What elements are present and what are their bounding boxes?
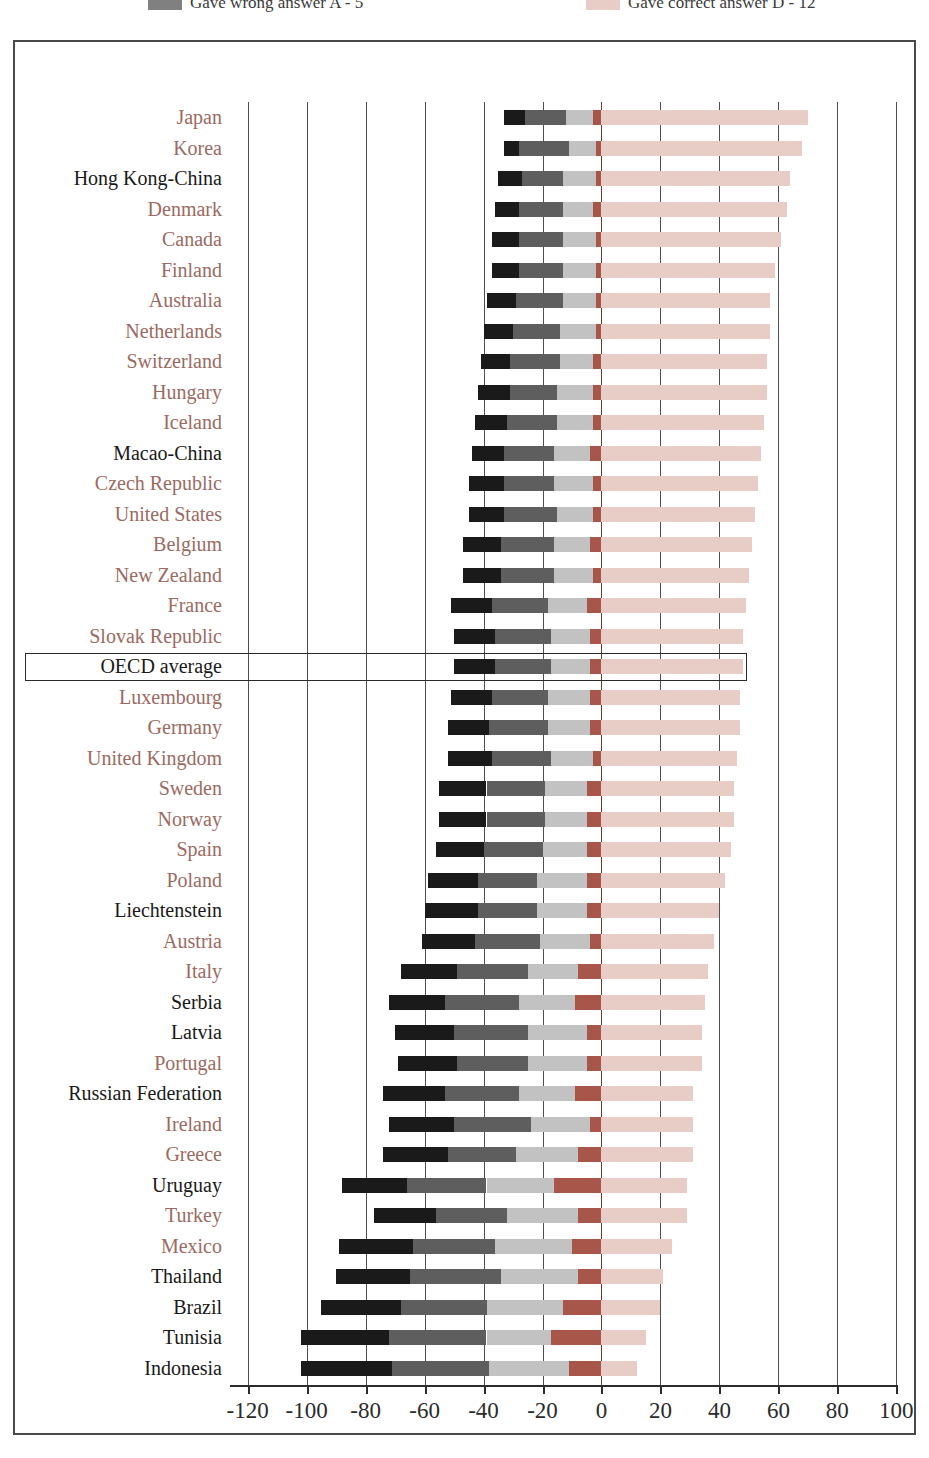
- segment-missing: [590, 446, 602, 461]
- row-label-portugal: Portugal: [35, 1048, 230, 1079]
- segment-wrong-b: [413, 1239, 496, 1254]
- segment-wrong-a: [301, 1330, 389, 1345]
- segment-wrong-a: [463, 568, 501, 583]
- segment-wrong-a: [448, 751, 492, 766]
- chart-row: Spain: [25, 834, 914, 865]
- row-bars: [230, 987, 914, 1018]
- chart-row: Tunisia: [25, 1322, 914, 1353]
- row-label-oecd-average: OECD average: [35, 651, 230, 682]
- segment-correct: [601, 1208, 687, 1223]
- segment-wrong-a: [504, 110, 525, 125]
- row-bars: [230, 1261, 914, 1292]
- segment-correct: [601, 202, 787, 217]
- chart-row: Luxembourg: [25, 682, 914, 713]
- row-label-switzerland: Switzerland: [35, 346, 230, 377]
- segment-wrong-b: [457, 964, 528, 979]
- segment-missing: [575, 995, 602, 1010]
- row-label-turkey: Turkey: [35, 1200, 230, 1231]
- segment-correct: [601, 507, 754, 522]
- chart-frame: JapanKoreaHong Kong-ChinaDenmarkCanadaFi…: [13, 40, 916, 1435]
- segment-wrong-a: [342, 1178, 407, 1193]
- row-bars: [230, 1322, 914, 1353]
- chart-row: Canada: [25, 224, 914, 255]
- segment-wrong-b: [519, 263, 563, 278]
- segment-wrong-a: [492, 263, 519, 278]
- segment-wrong-a: [475, 415, 507, 430]
- segment-missing: [590, 934, 602, 949]
- row-bars: [230, 1200, 914, 1231]
- row-bars: [230, 956, 914, 987]
- row-bars: [230, 316, 914, 347]
- row-bars: [230, 834, 914, 865]
- segment-wrong-b: [436, 1208, 507, 1223]
- segment-correct: [601, 141, 801, 156]
- segment-correct: [601, 903, 719, 918]
- segment-wrong-a: [422, 934, 475, 949]
- segment-wrong-b: [507, 415, 557, 430]
- row-bars: [230, 1078, 914, 1109]
- segment-missing: [593, 110, 602, 125]
- segment-wrong-a: [451, 690, 492, 705]
- row-label-uruguay: Uruguay: [35, 1170, 230, 1201]
- segment-wrong-b: [492, 751, 551, 766]
- segment-wrong-c: [563, 171, 595, 186]
- segment-missing: [587, 903, 602, 918]
- segment-wrong-c: [560, 324, 595, 339]
- segment-correct: [601, 537, 751, 552]
- segment-missing: [590, 690, 602, 705]
- segment-wrong-c: [540, 934, 590, 949]
- segment-wrong-a: [472, 446, 504, 461]
- row-bars: [230, 560, 914, 591]
- chart-row: Slovak Republic: [25, 621, 914, 652]
- chart-row: United States: [25, 499, 914, 530]
- segment-wrong-a: [454, 659, 495, 674]
- row-label-russian-federation: Russian Federation: [35, 1078, 230, 1109]
- segment-correct: [601, 964, 707, 979]
- row-label-poland: Poland: [35, 865, 230, 896]
- segment-wrong-c: [516, 1147, 578, 1162]
- segment-wrong-b: [448, 1147, 516, 1162]
- segment-correct: [601, 324, 769, 339]
- row-bars: [230, 743, 914, 774]
- segment-wrong-a: [439, 781, 486, 796]
- segment-wrong-c: [557, 507, 592, 522]
- segment-missing: [578, 964, 602, 979]
- segment-wrong-c: [487, 1300, 564, 1315]
- segment-wrong-a: [498, 171, 522, 186]
- row-bars: [230, 468, 914, 499]
- row-bars: [230, 194, 914, 225]
- row-bars: [230, 926, 914, 957]
- chart-legend: Gave wrong answer A - 5 Gave correct ans…: [0, 0, 929, 14]
- chart-row: Norway: [25, 804, 914, 835]
- segment-wrong-c: [554, 476, 592, 491]
- row-bars: [230, 163, 914, 194]
- row-label-iceland: Iceland: [35, 407, 230, 438]
- chart-row: Indonesia: [25, 1353, 914, 1384]
- segment-wrong-c: [548, 690, 589, 705]
- segment-wrong-a: [383, 1086, 445, 1101]
- segment-wrong-b: [489, 720, 548, 735]
- segment-wrong-c: [537, 903, 587, 918]
- segment-wrong-c: [545, 781, 586, 796]
- segment-wrong-c: [560, 354, 592, 369]
- segment-wrong-c: [519, 1086, 575, 1101]
- segment-wrong-c: [543, 842, 587, 857]
- row-label-belgium: Belgium: [35, 529, 230, 560]
- segment-missing: [569, 1361, 601, 1376]
- segment-missing: [590, 659, 602, 674]
- segment-correct: [601, 385, 766, 400]
- segment-wrong-c: [548, 598, 586, 613]
- chart-row: Turkey: [25, 1200, 914, 1231]
- segment-correct: [601, 110, 807, 125]
- segment-wrong-b: [454, 1117, 531, 1132]
- row-bars: [230, 712, 914, 743]
- row-bars: [230, 895, 914, 926]
- segment-wrong-c: [551, 629, 589, 644]
- segment-correct: [601, 568, 748, 583]
- segment-wrong-c: [487, 1178, 555, 1193]
- segment-correct: [601, 842, 731, 857]
- segment-wrong-a: [454, 629, 495, 644]
- chart-row: Netherlands: [25, 316, 914, 347]
- row-bars: [230, 682, 914, 713]
- chart-row: United Kingdom: [25, 743, 914, 774]
